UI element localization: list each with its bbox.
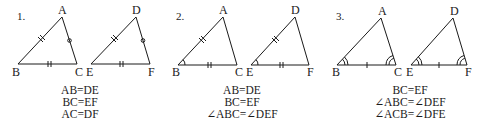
vertex-label-a: A xyxy=(219,4,228,16)
triangle-def-1 xyxy=(91,17,150,67)
condition: BC=EF xyxy=(196,96,288,108)
vertex-label-d: D xyxy=(291,4,300,16)
condition: ∠ACB=∠DFE xyxy=(364,108,456,120)
vertex-label-d: D xyxy=(450,5,459,17)
vertex-label-c: C xyxy=(235,66,243,78)
vertex-label-b: B xyxy=(332,66,340,78)
vertex-label-e: E xyxy=(246,66,253,78)
vertex-label-a: A xyxy=(58,4,67,16)
conditions-3: BC=EF ∠ABC=∠DEF ∠ACB=∠DFE xyxy=(364,84,456,120)
conditions-1: AB=DE BC=EF AC=DF xyxy=(44,84,116,120)
condition: AB=DE xyxy=(44,84,116,96)
problem-number-1: 1. xyxy=(17,11,25,22)
vertex-label-a: A xyxy=(378,5,387,17)
vertex-label-c: C xyxy=(394,66,402,78)
triangle-abc-1 xyxy=(18,17,77,67)
vertex-label-e: E xyxy=(406,66,413,78)
vertex-label-f: F xyxy=(465,66,472,78)
vertex-label-d: D xyxy=(132,4,141,16)
triangle-def-2 xyxy=(251,17,309,68)
vertex-label-f: F xyxy=(307,66,314,78)
problem-number-2: 2. xyxy=(176,11,184,22)
vertex-label-e: E xyxy=(86,66,93,78)
vertex-label-b: B xyxy=(12,66,20,78)
triangle-def-3 xyxy=(411,18,467,68)
vertex-label-c: C xyxy=(75,66,83,78)
condition: ∠ABC=∠DEF xyxy=(364,96,456,108)
condition: ∠ABC=∠DEF xyxy=(196,108,288,120)
condition: BC=EF xyxy=(364,84,456,96)
triangle-abc-2 xyxy=(178,17,237,68)
conditions-2: AB=DE BC=EF ∠ABC=∠DEF xyxy=(196,84,288,120)
triangle-abc-3 xyxy=(337,18,396,68)
condition: BC=EF xyxy=(44,96,116,108)
condition: AC=DF xyxy=(44,108,116,120)
vertex-label-f: F xyxy=(148,66,155,78)
condition: AB=DE xyxy=(196,84,288,96)
problem-number-3: 3. xyxy=(336,11,344,22)
vertex-label-b: B xyxy=(172,66,180,78)
